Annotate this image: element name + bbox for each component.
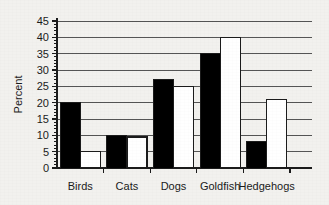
bar-dogs-white xyxy=(174,86,194,168)
bar-dogs-black xyxy=(154,80,174,168)
bar-cats-white xyxy=(127,137,147,168)
x-tick-label-dogs: Dogs xyxy=(161,180,187,192)
x-tick-label-birds: Birds xyxy=(68,180,94,192)
bar-birds-white xyxy=(80,152,100,168)
y-tick-label-20: 20 xyxy=(37,97,49,109)
y-tick-label-10: 10 xyxy=(37,129,49,141)
y-tick-label-15: 15 xyxy=(37,113,49,125)
y-tick-label-35: 35 xyxy=(37,48,49,60)
bar-goldfish-black xyxy=(200,54,220,168)
y-tick-label-40: 40 xyxy=(37,31,49,43)
bar-hedgehogs-white xyxy=(267,99,287,168)
x-tick-label-goldfish: Goldfish xyxy=(200,180,240,192)
y-tick-label-0: 0 xyxy=(43,162,49,174)
bar-birds-black xyxy=(60,103,80,168)
y-axis-title: Percent xyxy=(12,76,24,114)
percent-by-pet-bar-chart: 051015202530354045PercentBirdsCatsDogsGo… xyxy=(0,0,329,205)
y-tick-label-30: 30 xyxy=(37,64,49,76)
bar-hedgehogs-black xyxy=(247,142,267,168)
bar-cats-black xyxy=(107,135,127,168)
x-tick-label-cats: Cats xyxy=(116,180,139,192)
x-tick-label-hedgehogs: Hedgehogs xyxy=(239,180,296,192)
y-tick-label-45: 45 xyxy=(37,15,49,27)
y-tick-label-5: 5 xyxy=(43,146,49,158)
bar-chart-figure: 051015202530354045PercentBirdsCatsDogsGo… xyxy=(0,0,329,205)
bar-goldfish-white xyxy=(220,37,240,168)
y-tick-label-25: 25 xyxy=(37,80,49,92)
